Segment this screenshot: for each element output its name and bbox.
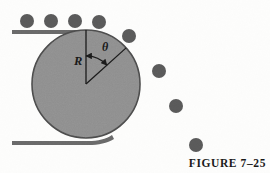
radius-label: R [74,55,82,68]
angle-label: θ [102,41,108,53]
paper-grain-overlay [0,0,270,173]
figure-caption: FIGURE 7–25 [189,157,266,169]
figure-container: R θ FIGURE 7–25 [0,0,270,173]
physics-diagram [0,0,270,173]
